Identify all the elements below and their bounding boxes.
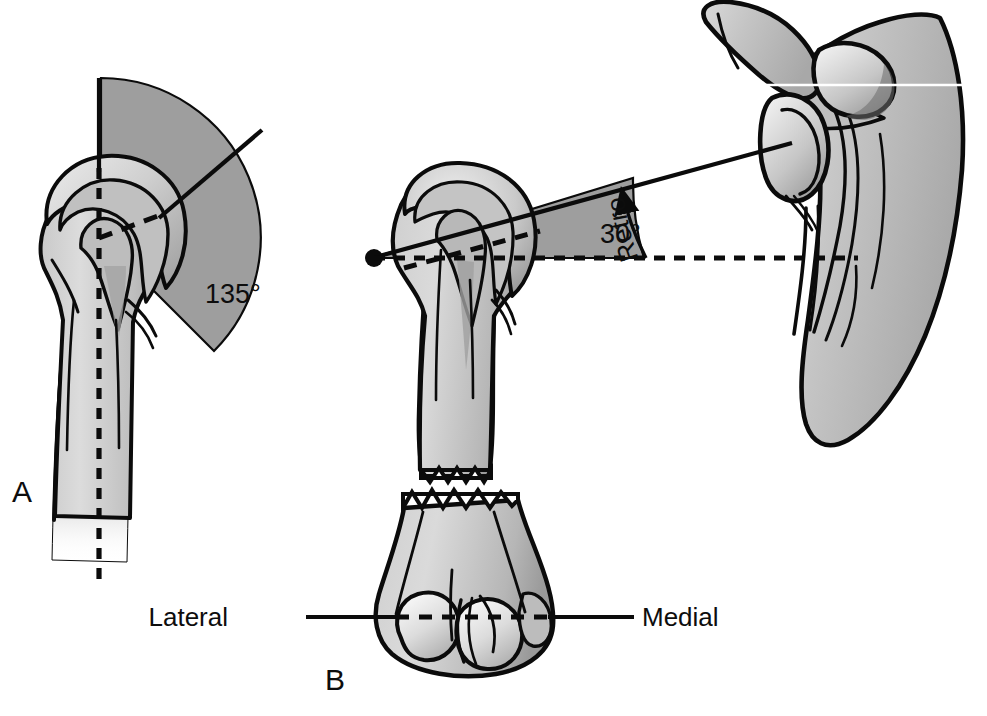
anatomy-illustration: 135° A <box>0 0 987 716</box>
neck-shaft-angle-label: 135° <box>205 279 261 309</box>
panel-b-letter: B <box>325 663 345 696</box>
panel-a-letter: A <box>12 475 32 508</box>
figure-root: 135° A <box>0 0 987 716</box>
lateral-label: Lateral <box>149 602 229 632</box>
medial-label: Medial <box>642 602 719 632</box>
retroversion-angle-label: 30° <box>600 219 641 249</box>
olecranon-fossa-line <box>451 570 453 640</box>
